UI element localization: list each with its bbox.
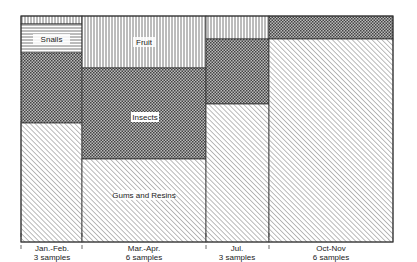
bar-jul [206,16,269,242]
segment-gums-oct-nov [269,39,393,242]
segment-insects-jan-feb [21,53,82,123]
bar-oct-nov [269,16,393,242]
bar-jan-feb [21,16,82,242]
mosaic-chart: Snails Fruit Insects Gums and Resins Jan… [0,0,417,262]
label-fruit: Fruit [136,38,153,47]
bar-mar-apr [82,16,206,242]
label-snails: Snails [41,35,63,44]
segment-fruit-jan-feb [21,16,82,24]
category-label-jan-feb: Jan.-Feb. [35,244,69,253]
segment-insects-jul [206,39,269,104]
segment-insects-oct-nov [269,16,393,39]
category-label-oct-nov: Oct-Nov [316,244,345,253]
segment-gums-jan-feb [21,123,82,242]
category-sublabel-jan-feb: 3 samples [34,253,70,262]
category-label-jul: Jul. [231,244,243,253]
segment-gums-mar-apr [82,159,206,242]
label-gums-and-resins: Gums and Resins [112,191,176,200]
label-insects: Insects [132,113,157,122]
segment-gums-jul [206,104,269,242]
category-sublabel-jul: 3 samples [219,253,255,262]
category-sublabel-mar-apr: 6 samples [126,253,162,262]
category-label-mar-apr: Mar.-Apr. [128,244,160,253]
segment-fruit-jul [206,16,269,39]
category-sublabel-oct-nov: 6 samples [313,253,349,262]
